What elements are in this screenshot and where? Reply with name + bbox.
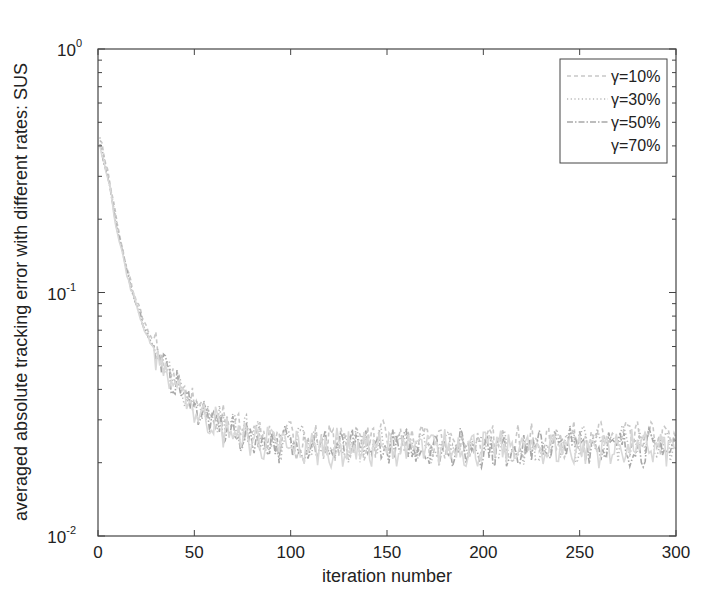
- x-tick-label: 100: [276, 543, 304, 562]
- legend-item: γ=30%: [611, 91, 660, 108]
- x-tick-label: 150: [373, 543, 401, 562]
- series-line: [100, 145, 676, 468]
- x-tick-label: 50: [185, 543, 204, 562]
- y-tick-label: 100: [57, 37, 82, 60]
- legend-item: γ=10%: [611, 68, 660, 85]
- chart: 050100150200250300 10010-110-2 iteration…: [0, 0, 712, 607]
- series-line: [100, 144, 676, 468]
- y-tick-label: 10-1: [47, 281, 76, 304]
- x-tick-label: 300: [662, 543, 690, 562]
- series-line: [100, 137, 676, 464]
- series-layer: [100, 137, 676, 468]
- y-axis-label: averaged absolute tracking error with di…: [11, 63, 31, 521]
- legend: γ=10%γ=30%γ=50%γ=70%: [560, 59, 667, 163]
- legend-item: γ=70%: [611, 137, 660, 154]
- series-line: [100, 140, 676, 461]
- x-tick-label: 0: [93, 543, 102, 562]
- y-tick-label: 10-2: [47, 524, 76, 547]
- x-tick-label: 200: [469, 543, 497, 562]
- legend-item: γ=50%: [611, 114, 660, 131]
- x-axis-label: iteration number: [322, 566, 452, 586]
- x-tick-label: 250: [565, 543, 593, 562]
